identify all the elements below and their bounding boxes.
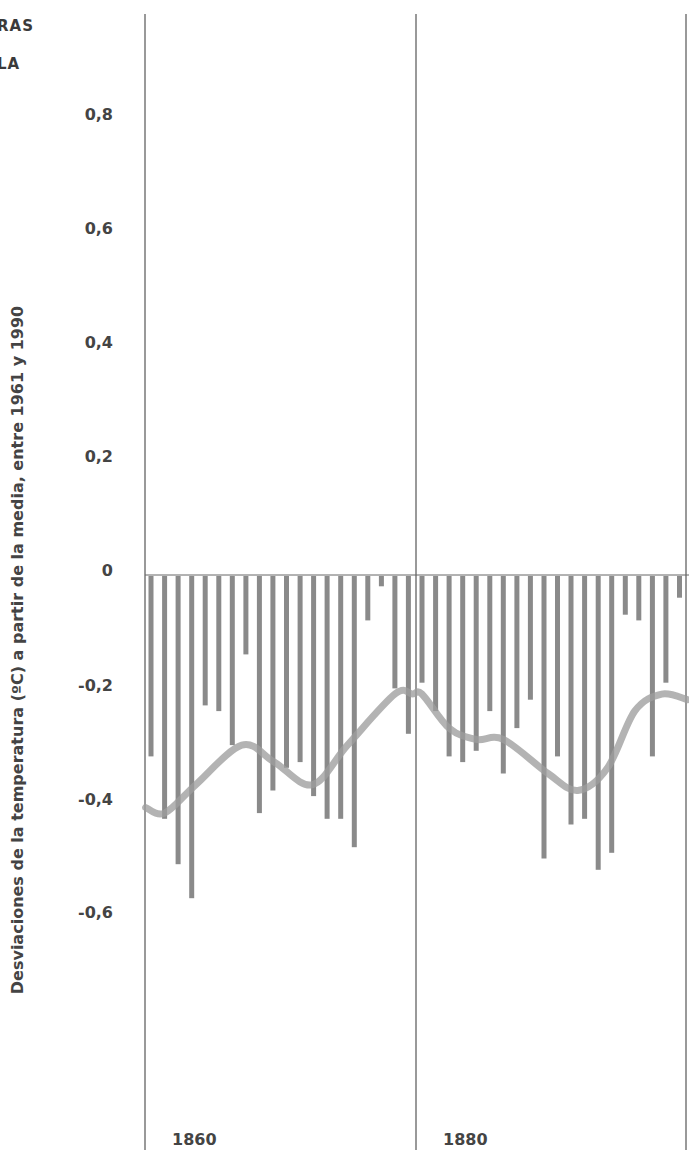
bar-series xyxy=(149,576,683,898)
bar-1888 xyxy=(528,576,533,700)
bar-1868 xyxy=(257,576,262,813)
bar-1878 xyxy=(392,576,397,688)
bar-1885 xyxy=(487,576,492,711)
bar-1872 xyxy=(311,576,316,796)
bar-1896 xyxy=(636,576,641,620)
bar-1876 xyxy=(365,576,370,620)
bar-1864 xyxy=(203,576,208,705)
bar-1887 xyxy=(514,576,519,728)
bar-1863 xyxy=(189,576,194,898)
bar-1870 xyxy=(284,576,289,768)
bar-1877 xyxy=(379,576,384,586)
bar-1871 xyxy=(298,576,303,762)
bar-1899 xyxy=(677,576,682,598)
bar-1880 xyxy=(420,576,425,683)
gridlines xyxy=(145,14,686,1150)
bar-1875 xyxy=(352,576,357,847)
bar-1860 xyxy=(149,576,154,756)
bar-1874 xyxy=(338,576,343,819)
bar-1894 xyxy=(609,576,614,853)
bar-1866 xyxy=(230,576,235,745)
bar-1862 xyxy=(176,576,181,864)
bar-1890 xyxy=(555,576,560,756)
bar-1867 xyxy=(243,576,248,654)
bar-1889 xyxy=(542,576,547,859)
bar-1879 xyxy=(406,576,411,734)
bar-1873 xyxy=(325,576,330,819)
bar-1881 xyxy=(433,576,438,711)
bar-1884 xyxy=(474,576,479,751)
bar-1893 xyxy=(596,576,601,870)
bar-1861 xyxy=(162,576,167,819)
bar-1865 xyxy=(216,576,221,711)
bar-1897 xyxy=(650,576,655,756)
bar-1895 xyxy=(623,576,628,615)
chart-plot-area xyxy=(0,0,689,1155)
bar-1892 xyxy=(582,576,587,819)
bar-1898 xyxy=(663,576,668,683)
